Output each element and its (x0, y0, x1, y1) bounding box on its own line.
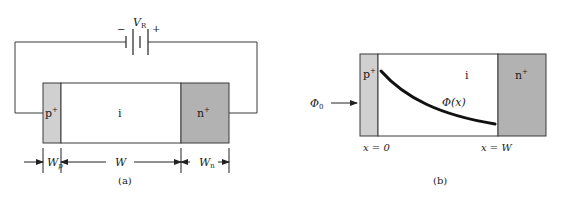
intrinsic-label: i (118, 107, 122, 120)
figure-a: VR − + p+ i n+ Wp W Wn (a) (15, 16, 257, 186)
figure-a-caption: (a) (118, 175, 132, 186)
battery-plus-sign: + (152, 23, 160, 34)
figure-b: p+ i n+ Φ(x) Φ0 x = 0 x = W (b) (310, 54, 546, 186)
figure-b-caption: (b) (433, 175, 447, 186)
n-plus-region (498, 54, 546, 136)
wn-label: Wn (199, 156, 215, 170)
intrinsic-label: i (465, 69, 469, 82)
intrinsic-region (378, 54, 498, 136)
battery-minus-sign: − (117, 24, 125, 35)
incident-flux-label: Φ0 (310, 97, 324, 111)
x-start-label: x = 0 (363, 142, 390, 153)
w-label: W (115, 156, 128, 169)
battery-icon (126, 29, 148, 55)
x-end-label: x = W (481, 142, 512, 153)
flux-curve-label: Φ(x) (442, 96, 466, 109)
pin-diode-figure: VR − + p+ i n+ Wp W Wn (a) (0, 0, 561, 200)
battery-voltage-label: VR (133, 16, 147, 30)
